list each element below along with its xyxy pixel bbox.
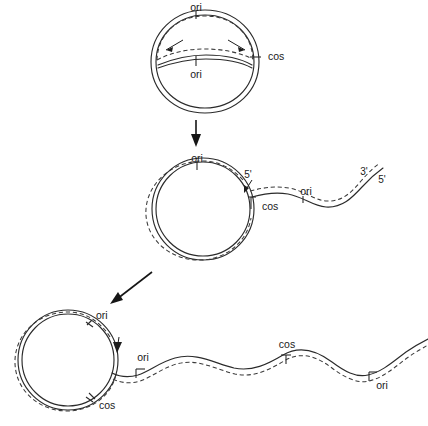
stage3-dashed-circle-strand bbox=[15, 312, 116, 411]
stage3-outer-solid-circle bbox=[18, 310, 118, 410]
stage1-replication-fork-arrow-right bbox=[228, 40, 245, 52]
stage3-cos-circle-tick bbox=[89, 393, 95, 399]
stage2-outer-solid-circle bbox=[152, 158, 254, 260]
stage2-three-prime-label: 3' bbox=[360, 166, 368, 177]
rolling-circle-replication-figure: ori ori cos cos ori bbox=[0, 0, 428, 426]
diagram-root: ori ori cos cos ori bbox=[0, 0, 428, 426]
stage1-inner-solid-circle bbox=[156, 15, 254, 108]
stage1-ori-inner-label: ori bbox=[190, 68, 202, 80]
stage1-ori-top-label: ori bbox=[190, 1, 202, 13]
stage2-tail-ori-label: ori bbox=[300, 185, 312, 197]
stage-3-group: ori cos ori cos ori bbox=[15, 309, 428, 411]
stage3-ori-circle-label: ori bbox=[96, 309, 108, 321]
stage3-inner-solid-circle bbox=[22, 314, 114, 406]
stage-1-group: ori ori cos bbox=[151, 1, 284, 113]
stage-2-group: cos ori 5' ori 3' 5' bbox=[146, 152, 386, 260]
stage3-tail-cos-label: cos bbox=[279, 338, 295, 350]
stage2-ori-top-label: ori bbox=[191, 152, 203, 164]
stage-transition-arrow-diagonal bbox=[110, 272, 152, 304]
stage1-cos-label: cos bbox=[268, 50, 284, 62]
stage3-tail-ori-label: ori bbox=[376, 379, 388, 391]
stage2-inner-solid-circle bbox=[156, 162, 250, 256]
stage3-displacement-arrow bbox=[113, 337, 122, 353]
stage3-cos-circle-label: cos bbox=[99, 399, 115, 411]
stage1-replication-fork-arrow-left bbox=[166, 40, 183, 52]
stage-transition-arrow-vertical bbox=[191, 120, 201, 147]
stage2-five-prime-end-label: 5' bbox=[378, 174, 386, 185]
stage2-five-prime-label: 5' bbox=[244, 169, 252, 180]
stage2-cos-label: cos bbox=[262, 200, 278, 212]
stage2-dashed-circle-strand bbox=[146, 161, 251, 260]
stage3-junction-ori-label: ori bbox=[137, 351, 149, 363]
